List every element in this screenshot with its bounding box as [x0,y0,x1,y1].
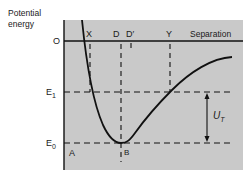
point-b-label: B [124,148,129,157]
origin-label: O [53,36,60,46]
point-d-prime-label: D′ [126,29,134,39]
plot-panel [64,20,243,170]
e1-label: E1 [46,87,56,99]
point-x-label: X [86,29,92,39]
point-a-label: A [69,148,75,158]
point-y-label: Y [166,29,172,39]
y-axis-label-line2: energy [8,19,35,29]
y-axis-label-line1: Potential [8,8,41,18]
e0-label: E0 [46,138,56,150]
x-axis-label: Separation [190,29,231,39]
potential-energy-diagram: Potential energy O X D D′ Y Separation E… [0,0,246,179]
point-d-label: D [113,29,120,39]
